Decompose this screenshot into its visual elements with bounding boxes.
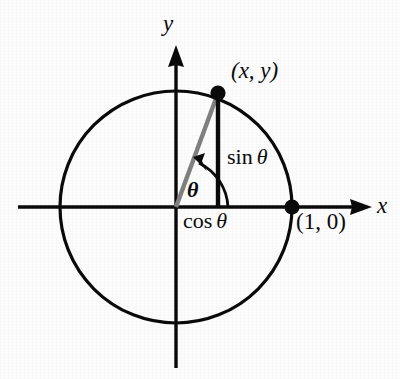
x-axis-label: x	[377, 194, 387, 217]
y-axis-arrowhead	[168, 45, 184, 67]
theta-symbol-sine: θ	[253, 144, 268, 169]
terminal-point-dot	[210, 85, 225, 100]
theta-arc	[199, 163, 228, 207]
cosine-label: cosθ	[183, 210, 227, 232]
angle-theta-label: θ	[187, 179, 198, 201]
x-axis-arrowhead	[350, 199, 372, 215]
sine-label: sinθ	[227, 146, 268, 168]
x-intercept-label: (1, 0)	[296, 210, 346, 233]
figure-canvas	[0, 0, 400, 379]
theta-symbol-cosine: θ	[212, 208, 227, 233]
sine-function-name: sin	[227, 144, 253, 169]
y-axis-label: y	[163, 12, 173, 35]
terminal-point-label: (x, y)	[231, 59, 278, 82]
cosine-function-name: cos	[183, 208, 212, 233]
unit-circle-figure: y x (x, y) sinθ cosθ θ (1, 0)	[0, 0, 400, 379]
